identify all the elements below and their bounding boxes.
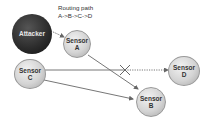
sensor-c-id: C (19, 74, 41, 82)
sensor-c-label: Sensor (19, 67, 41, 75)
sensor-c-node: Sensor C (14, 59, 46, 89)
sensor-b-node: Sensor B (136, 87, 166, 117)
attacker-label: Attacker (19, 30, 45, 38)
attacker-node: Attacker (12, 14, 52, 54)
annotation-line2: A->B->C->D (58, 12, 93, 20)
routing-path-annotation: Routing path A->B->C->D (58, 4, 93, 19)
sensor-b-id: B (140, 102, 162, 110)
annotation-line1: Routing path (58, 4, 93, 12)
sensor-a-node: Sensor A (63, 30, 91, 58)
sensor-b-label: Sensor (140, 95, 162, 103)
sensor-d-node: Sensor D (168, 56, 200, 86)
sensor-a-label: Sensor (66, 37, 88, 45)
sensor-a-id: A (66, 44, 88, 52)
sensor-d-id: D (173, 71, 195, 79)
sensor-d-label: Sensor (173, 64, 195, 72)
edge-attacker-a (51, 31, 64, 37)
edge-c-b (44, 80, 133, 99)
edge-a-b (88, 55, 138, 89)
